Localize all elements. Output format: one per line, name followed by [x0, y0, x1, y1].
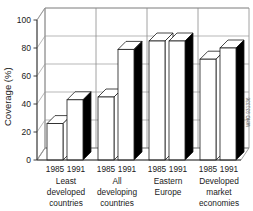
x-year-label-g1-1991: 1991	[67, 164, 86, 174]
bar-1991-developed-market	[220, 40, 244, 160]
bar-group-all-developing	[98, 41, 142, 160]
bar-1991-eastern-europe	[169, 33, 193, 160]
x-group-label-g4-line1: Developed	[199, 176, 239, 186]
x-group-label-g3-line1: Eastern	[154, 176, 183, 186]
bar-group-developed-market	[200, 40, 244, 160]
bar-group-eastern-europe	[149, 33, 193, 160]
y-tick-label-60: 60	[22, 71, 32, 81]
x-year-label-g4-1985: 1985	[199, 164, 218, 174]
y-tick-label-20: 20	[22, 127, 32, 137]
y-tick-label-80: 80	[22, 43, 32, 53]
x-axis-labels: 1985 1991 Least developed countries 1985…	[46, 164, 239, 208]
y-axis-title: Coverage (%)	[2, 67, 13, 126]
y-tick-label-40: 40	[22, 99, 32, 109]
x-group-label-g2-line2: developing	[97, 187, 138, 197]
x-year-label-g2-1985: 1985	[97, 164, 116, 174]
x-group-label-g2-line1: All	[112, 176, 121, 186]
y-axis	[34, 20, 38, 160]
x-year-label-g3-1985: 1985	[148, 164, 167, 174]
bar-group-least-developed	[47, 92, 91, 160]
x-group-label-g1-line3: countries	[49, 198, 83, 208]
source-credit-label: WHO 931336	[246, 97, 251, 127]
x-year-label-g1-1985: 1985	[46, 164, 65, 174]
chart-plot-area: 0 20 40 60 80 100 Coverage (%)	[0, 0, 253, 211]
x-year-label-g4-1991: 1991	[220, 164, 239, 174]
x-year-label-g3-1991: 1991	[169, 164, 188, 174]
x-group-label-g1-line1: Least	[56, 176, 77, 186]
y-tick-label-100: 100	[17, 15, 31, 25]
x-group-label-g4-line2: market	[206, 187, 232, 197]
bar-1991-all-developing	[118, 41, 142, 160]
x-group-label-g4-line3: economies	[199, 198, 239, 208]
x-group-label-g2-line3: countries	[100, 198, 134, 208]
bar-chart-figure: 0 20 40 60 80 100 Coverage (%)	[0, 0, 253, 211]
x-year-label-g2-1991: 1991	[118, 164, 137, 174]
y-tick-label-0: 0	[26, 155, 31, 165]
x-group-label-g1-line2: developed	[47, 187, 86, 197]
x-group-label-g3-line2: Europe	[155, 187, 182, 197]
plot-left-wall	[37, 8, 45, 160]
bar-1991-least-developed	[67, 92, 91, 160]
